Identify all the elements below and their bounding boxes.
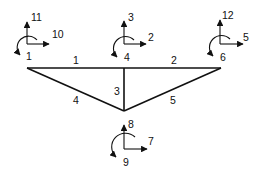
- dof-label-7: 7: [148, 135, 154, 147]
- rotation-arrow-icon: [112, 133, 135, 157]
- dof-group-left-node: [17, 22, 49, 55]
- frame-diagram: 1 2 3 4 5 11 10 1 3 2 4 12 5 6 8 7 9: [0, 0, 261, 176]
- dof-label-6: 6: [220, 51, 226, 63]
- dof-label-11: 11: [31, 11, 42, 23]
- member-label-4: 4: [73, 94, 79, 106]
- dof-label-5: 5: [243, 31, 249, 43]
- dof-label-10: 10: [52, 28, 64, 40]
- dof-group-right-node: [209, 20, 243, 56]
- member-label-3: 3: [114, 85, 120, 97]
- dof-label-2: 2: [148, 31, 154, 43]
- dof-label-3: 3: [128, 11, 134, 23]
- member-label-2: 2: [171, 54, 177, 66]
- dof-label-4: 4: [124, 51, 130, 63]
- member-label-1: 1: [73, 54, 79, 66]
- dof-label-12: 12: [222, 9, 234, 21]
- members: [27, 68, 221, 111]
- dof-label-1: 1: [26, 50, 32, 62]
- member-label-5: 5: [170, 94, 176, 106]
- dof-label-9: 9: [123, 156, 129, 168]
- dof-label-8: 8: [128, 118, 134, 130]
